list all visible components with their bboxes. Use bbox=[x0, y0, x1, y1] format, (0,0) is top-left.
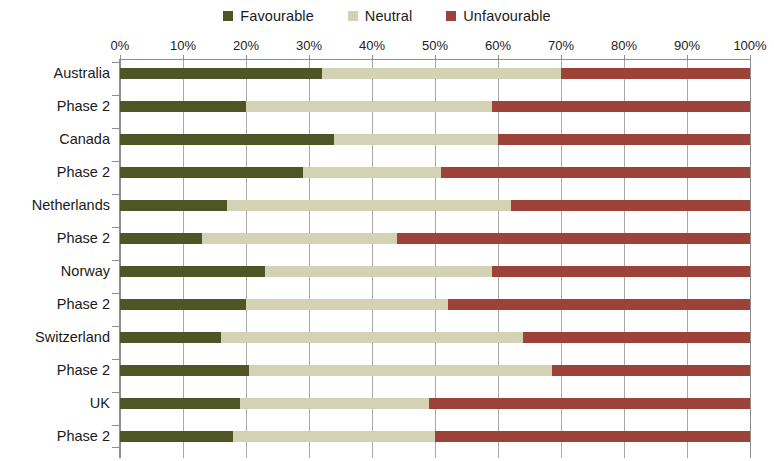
square-swatch bbox=[223, 11, 233, 21]
bar-segment-unfavourable bbox=[429, 398, 750, 409]
gridline bbox=[750, 60, 751, 458]
legend-entry-unfavourable: Unfavourable bbox=[446, 8, 550, 24]
bar-segment-neutral bbox=[334, 134, 498, 145]
y-axis-tick bbox=[112, 227, 119, 228]
square-swatch bbox=[446, 11, 456, 21]
bar-segment-unfavourable bbox=[492, 101, 750, 112]
y-axis-category-label: Australia bbox=[0, 65, 110, 81]
bar-segment-unfavourable bbox=[511, 200, 750, 211]
bar-segment-neutral bbox=[240, 398, 429, 409]
bar-segment-neutral bbox=[233, 431, 435, 442]
bar-segment-favourable bbox=[120, 167, 303, 178]
bar-segment-neutral bbox=[303, 167, 442, 178]
stacked-bar-chart: FavourableNeutralUnfavourable 0%10%20%30… bbox=[0, 0, 774, 461]
bar-segment-neutral bbox=[221, 332, 523, 343]
bar-segment-neutral bbox=[246, 299, 448, 310]
legend-label: Favourable bbox=[240, 8, 314, 24]
bar-segment-neutral bbox=[249, 365, 551, 376]
bar-segment-favourable bbox=[120, 365, 249, 376]
plot-area bbox=[120, 60, 750, 458]
y-axis-category-label: Phase 2 bbox=[0, 98, 110, 114]
bar-row bbox=[120, 134, 750, 145]
y-axis-category-label: Phase 2 bbox=[0, 230, 110, 246]
y-axis-tick bbox=[112, 447, 119, 448]
x-axis-tick-label: 10% bbox=[170, 38, 196, 53]
y-axis-tick bbox=[112, 293, 119, 294]
bar-segment-favourable bbox=[120, 101, 246, 112]
y-axis-tick bbox=[112, 62, 119, 63]
bar-segment-unfavourable bbox=[435, 431, 750, 442]
bar-segment-favourable bbox=[120, 134, 334, 145]
bar-segment-unfavourable bbox=[448, 299, 750, 310]
x-axis-tick-label: 40% bbox=[359, 38, 385, 53]
bar-row bbox=[120, 299, 750, 310]
bar-segment-unfavourable bbox=[561, 68, 750, 79]
bar-row bbox=[120, 266, 750, 277]
x-axis-tick-labels: 0%10%20%30%40%50%60%70%80%90%100% bbox=[0, 38, 774, 55]
y-axis-category-label: Phase 2 bbox=[0, 296, 110, 312]
y-axis-category-label: Norway bbox=[0, 263, 110, 279]
y-axis-category-label: Netherlands bbox=[0, 197, 110, 213]
bar-segment-neutral bbox=[202, 233, 397, 244]
bar-segment-neutral bbox=[322, 68, 561, 79]
bar-segment-favourable bbox=[120, 332, 221, 343]
y-axis-tick bbox=[112, 128, 119, 129]
bar-row bbox=[120, 101, 750, 112]
bar-segment-neutral bbox=[227, 200, 511, 211]
bar-segment-unfavourable bbox=[492, 266, 750, 277]
y-axis-tick bbox=[112, 392, 119, 393]
y-axis-tick bbox=[112, 95, 119, 96]
chart-legend: FavourableNeutralUnfavourable bbox=[0, 4, 774, 28]
bar-row bbox=[120, 431, 750, 442]
y-axis-tick bbox=[112, 161, 119, 162]
x-axis-tick-label: 50% bbox=[422, 38, 448, 53]
bar-segment-favourable bbox=[120, 398, 240, 409]
bar-row bbox=[120, 332, 750, 343]
x-axis-tick-label: 0% bbox=[111, 38, 130, 53]
bar-segment-unfavourable bbox=[552, 365, 750, 376]
x-axis-tick-label: 70% bbox=[548, 38, 574, 53]
bar-segment-unfavourable bbox=[397, 233, 750, 244]
legend-label: Unfavourable bbox=[463, 8, 550, 24]
bar-segment-favourable bbox=[120, 200, 227, 211]
bar-segment-favourable bbox=[120, 68, 322, 79]
legend-label: Neutral bbox=[365, 8, 412, 24]
y-axis-tick bbox=[112, 194, 119, 195]
legend-entry-neutral: Neutral bbox=[348, 8, 412, 24]
y-axis-tick bbox=[112, 359, 119, 360]
bar-segment-favourable bbox=[120, 266, 265, 277]
bar-segment-unfavourable bbox=[441, 167, 750, 178]
y-axis-category-label: Switzerland bbox=[0, 329, 110, 345]
y-axis-tick bbox=[112, 326, 119, 327]
bar-row bbox=[120, 398, 750, 409]
x-axis-tick-label: 90% bbox=[674, 38, 700, 53]
x-axis-tick-label: 20% bbox=[233, 38, 259, 53]
y-axis-category-label: Canada bbox=[0, 131, 110, 147]
bar-segment-neutral bbox=[265, 266, 492, 277]
bar-segment-unfavourable bbox=[498, 134, 750, 145]
y-axis-tick bbox=[112, 425, 119, 426]
bar-row bbox=[120, 68, 750, 79]
bar-segment-favourable bbox=[120, 233, 202, 244]
bar-row bbox=[120, 233, 750, 244]
y-axis-category-label: Phase 2 bbox=[0, 428, 110, 444]
bar-segment-favourable bbox=[120, 299, 246, 310]
y-axis-tick bbox=[112, 260, 119, 261]
y-axis-category-labels: AustraliaPhase 2CanadaPhase 2Netherlands… bbox=[0, 0, 110, 461]
x-axis-tick-label: 60% bbox=[485, 38, 511, 53]
legend-entry-favourable: Favourable bbox=[223, 8, 314, 24]
square-swatch bbox=[348, 11, 358, 21]
bar-segment-unfavourable bbox=[523, 332, 750, 343]
x-axis-tick-label: 80% bbox=[611, 38, 637, 53]
bar-row bbox=[120, 167, 750, 178]
x-axis-tick-label: 30% bbox=[296, 38, 322, 53]
y-axis-category-label: UK bbox=[0, 395, 110, 411]
y-axis-category-label: Phase 2 bbox=[0, 362, 110, 378]
bar-segment-neutral bbox=[246, 101, 492, 112]
bar-row bbox=[120, 200, 750, 211]
bar-row bbox=[120, 365, 750, 376]
bar-segment-favourable bbox=[120, 431, 233, 442]
y-axis-category-label: Phase 2 bbox=[0, 164, 110, 180]
x-axis-tick-label: 100% bbox=[733, 38, 766, 53]
